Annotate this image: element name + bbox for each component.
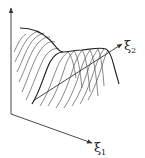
ridge-curve [20,28,119,84]
highlighted-curve [32,52,63,104]
svg-text:2: 2 [131,46,136,55]
surface-diagram: ξ 2 ξ 1 [0,0,145,158]
xi1-label: ξ 1 [94,140,106,157]
xi2-label: ξ 2 [124,38,136,55]
surface-section-curves [14,31,108,108]
xi1-axis [11,114,92,143]
xi2-axis [33,44,122,101]
svg-text:1: 1 [101,148,106,157]
